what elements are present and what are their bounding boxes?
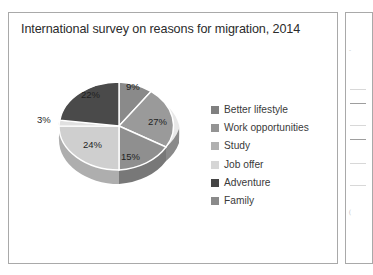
pie-label-job-offer: 3% bbox=[37, 115, 51, 125]
adjacent-panel-rule bbox=[350, 89, 366, 90]
adjacent-panel-rule bbox=[350, 163, 366, 164]
legend-item-better-lifestyle[interactable]: Better lifestyle bbox=[211, 101, 331, 119]
pie-label-adventure: 22% bbox=[81, 90, 100, 100]
pie-label-work-opportunities: 15% bbox=[121, 152, 140, 162]
adjacent-panel-mark: ( bbox=[349, 209, 351, 215]
legend-label-work-opportunities: Work opportunities bbox=[224, 122, 309, 134]
chart-title: International survey on reasons for migr… bbox=[21, 21, 300, 37]
legend-label-job-offer: Job offer bbox=[224, 159, 263, 171]
pie-chart: 9% 27% 15% 24% 3% 22% bbox=[56, 53, 182, 185]
legend-swatch-icon-better-lifestyle bbox=[211, 106, 219, 114]
legend-label-family: Family bbox=[224, 195, 254, 207]
adjacent-panel-mark: - bbox=[349, 47, 351, 53]
adjacent-panel-rule bbox=[350, 139, 366, 140]
pie-label-family: 9% bbox=[126, 82, 140, 92]
legend-item-study[interactable]: Study bbox=[211, 137, 331, 155]
legend-swatch-icon-study bbox=[211, 142, 219, 150]
legend-swatch-icon-adventure bbox=[211, 179, 219, 187]
legend-item-work-opportunities[interactable]: Work opportunities bbox=[211, 119, 331, 137]
legend-swatch-icon-job-offer bbox=[211, 161, 219, 169]
adjacent-panel: - ( bbox=[345, 12, 373, 264]
legend-item-job-offer[interactable]: Job offer bbox=[211, 156, 331, 174]
adjacent-panel-rule bbox=[350, 185, 366, 186]
legend-label-study: Study bbox=[224, 140, 250, 152]
legend-label-adventure: Adventure bbox=[224, 177, 270, 189]
legend-swatch-icon-family bbox=[211, 197, 219, 205]
legend-item-family[interactable]: Family bbox=[211, 192, 331, 210]
pie-label-study: 24% bbox=[83, 140, 102, 150]
pie-chart-plot-area: 9% 27% 15% 24% 3% 22% Better lifestyle W… bbox=[9, 43, 337, 263]
adjacent-panel-rule bbox=[350, 103, 366, 104]
adjacent-panel-rule bbox=[350, 125, 366, 126]
pie-label-better-lifestyle: 27% bbox=[148, 117, 167, 127]
legend-item-adventure[interactable]: Adventure bbox=[211, 174, 331, 192]
legend-label-better-lifestyle: Better lifestyle bbox=[224, 104, 288, 116]
legend-swatch-icon-work-opportunities bbox=[211, 124, 219, 132]
figure-panel: International survey on reasons for migr… bbox=[8, 12, 338, 264]
chart-legend: Better lifestyle Work opportunities Stud… bbox=[211, 101, 331, 210]
